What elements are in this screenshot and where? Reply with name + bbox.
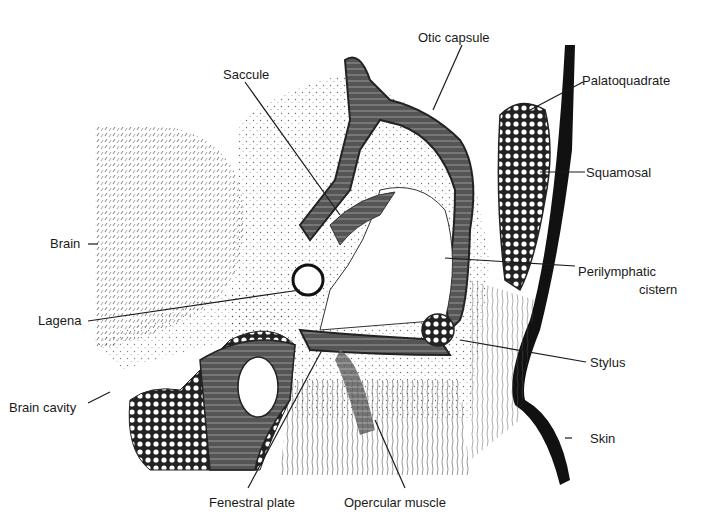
label-stylus: Stylus bbox=[590, 355, 625, 370]
label-otic-capsule: Otic capsule bbox=[418, 30, 490, 45]
label-cistern: cistern bbox=[639, 282, 677, 297]
label-opercular-muscle: Opercular muscle bbox=[344, 495, 446, 510]
label-lagena: Lagena bbox=[38, 313, 81, 328]
label-squamosal: Squamosal bbox=[586, 165, 651, 180]
label-fenestral-plate: Fenestral plate bbox=[209, 495, 295, 510]
label-perilymphatic: Perilymphatic bbox=[578, 264, 656, 279]
label-palatoquadrate: Palatoquadrate bbox=[582, 73, 670, 88]
label-saccule: Saccule bbox=[223, 67, 269, 82]
label-skin: Skin bbox=[590, 431, 615, 446]
label-brain: Brain bbox=[50, 236, 80, 251]
label-brain-cavity: Brain cavity bbox=[9, 400, 76, 415]
